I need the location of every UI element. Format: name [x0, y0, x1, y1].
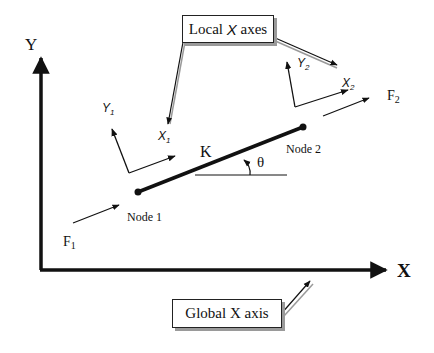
global-callout-text: Global X axis [185, 305, 268, 322]
force-f2-label: F2 [387, 88, 400, 105]
local-callout-suffix: axes [241, 21, 268, 38]
local-callout-italic: X [227, 21, 237, 38]
force-f1-arrow [73, 205, 119, 223]
global-callout-leader [281, 281, 313, 316]
local-x1-label: X1 [157, 129, 170, 145]
node-1-point [135, 189, 142, 196]
local-y1-label: Y1 [102, 101, 114, 117]
node-2-point [300, 124, 307, 131]
angle-label: θ [257, 154, 264, 170]
force-f1-label: F1 [63, 234, 76, 251]
global-x-label: X [397, 260, 411, 281]
force-f2-arrow [323, 98, 369, 116]
node-2-label: Node 2 [286, 142, 321, 156]
local-axes-callout: Local X axes [182, 15, 274, 43]
stiffness-label: K [200, 143, 212, 160]
local-callout-prefix: Local [189, 21, 223, 38]
global-axis-callout: Global X axis [172, 299, 282, 328]
local-y2-label: Y2 [297, 56, 310, 72]
node-1-label: Node 1 [127, 210, 162, 224]
local-x2-label: X2 [341, 76, 355, 92]
local-callout-leaders [168, 37, 337, 124]
global-y-label: Y [25, 35, 37, 54]
